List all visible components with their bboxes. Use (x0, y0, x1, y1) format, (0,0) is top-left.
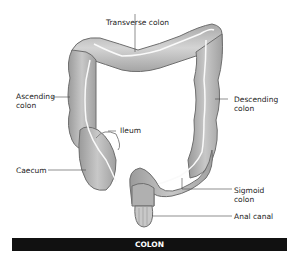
rectum (132, 183, 154, 206)
label-ileum: Ileum (120, 126, 141, 135)
label-caecum: Caecum (16, 166, 47, 175)
label-ascending-colon: Ascending colon (16, 92, 55, 110)
label-transverse-colon: Transverse colon (106, 18, 169, 27)
label-descending-colon: Descending colon (234, 95, 278, 113)
anal-canal (135, 206, 153, 227)
label-sigmoid-colon: Sigmoid colon (234, 186, 264, 204)
label-anal-canal: Anal canal (234, 212, 273, 221)
diagram-title-bar: COLON (12, 238, 287, 251)
